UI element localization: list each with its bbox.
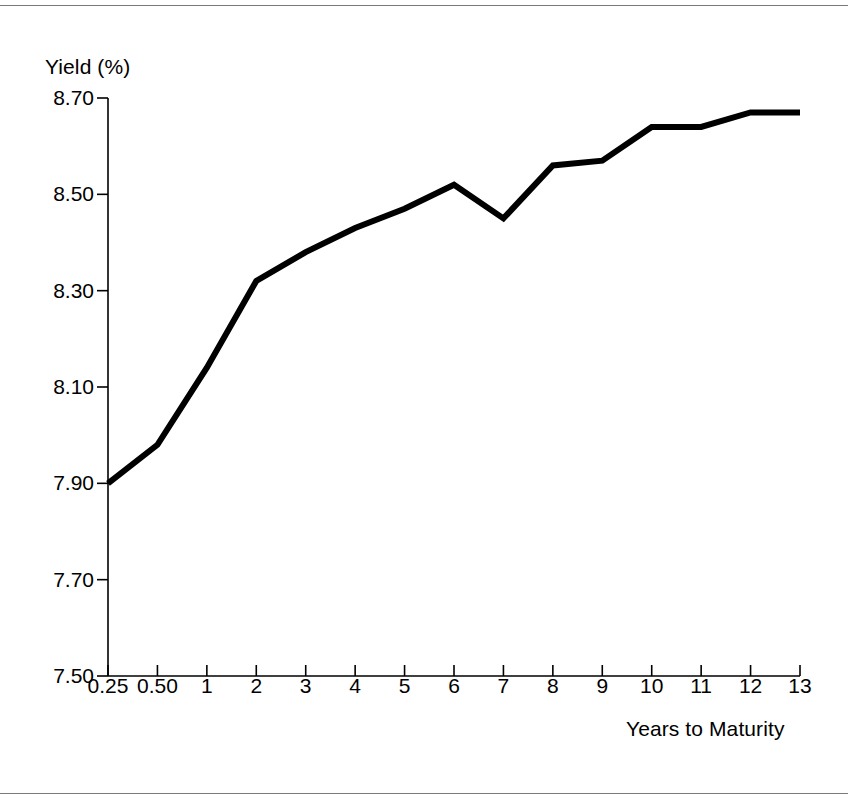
x-axis-tick-label: 13 — [788, 675, 811, 696]
x-axis-tick-label: 5 — [399, 675, 411, 696]
x-axis-tick-label: 10 — [640, 675, 663, 696]
x-axis-tick-label: 6 — [448, 675, 460, 696]
figure-container: Yield (%) 7.507.707.908.108.308.508.70 0… — [0, 0, 848, 801]
x-axis-tick-label: 4 — [349, 675, 361, 696]
plot-area: Yield (%) 7.507.707.908.108.308.508.70 0… — [0, 0, 848, 801]
x-axis-tick-labels: 0.250.5012345678910111213 — [0, 675, 848, 709]
x-axis-tick-label: 0.50 — [137, 675, 178, 696]
x-axis-tick-label: 12 — [739, 675, 762, 696]
x-axis-title: Years to Maturity — [626, 717, 785, 741]
x-axis-tick-label: 3 — [300, 675, 312, 696]
x-axis-tick-label: 9 — [596, 675, 608, 696]
x-axis-tick-label: 0.25 — [88, 675, 129, 696]
x-axis-tick-label: 1 — [201, 675, 213, 696]
x-axis-tick-label: 2 — [250, 675, 262, 696]
x-axis-tick-label: 8 — [547, 675, 559, 696]
x-axis-tick-label: 11 — [690, 675, 712, 696]
yield-curve-line — [108, 112, 800, 483]
x-axis-tick-label: 7 — [498, 675, 510, 696]
y-axis-ticks — [97, 98, 108, 676]
